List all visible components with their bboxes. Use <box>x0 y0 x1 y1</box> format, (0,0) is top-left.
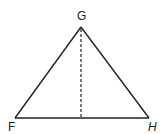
vertex-label-g: G <box>77 9 86 23</box>
side-fg <box>15 27 81 118</box>
triangle-diagram: G F H <box>0 0 160 134</box>
side-gh <box>81 27 149 118</box>
vertex-label-f: F <box>8 120 15 134</box>
vertex-label-h: H <box>148 120 157 134</box>
